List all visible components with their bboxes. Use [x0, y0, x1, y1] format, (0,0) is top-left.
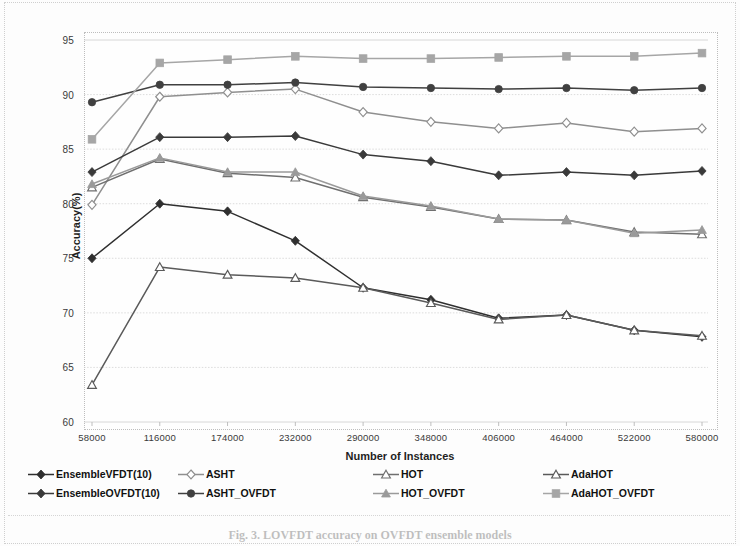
legend-item-ensemblevfdt10[interactable]: EnsembleVFDT(10) [28, 468, 152, 480]
legend-marker-icon [373, 469, 399, 480]
series-ensemblevfdt10 [88, 199, 706, 341]
legend-marker-icon [178, 488, 204, 499]
y-tick-label: 90 [62, 89, 74, 100]
legend-item-adahot-ovfdt[interactable]: AdaHOT_OVFDT [543, 487, 654, 499]
legend-marker-icon [28, 469, 54, 480]
x-ticks [92, 422, 702, 426]
y-tick-label: 60 [62, 417, 74, 428]
legend-marker-icon [543, 469, 569, 480]
series-asht [88, 85, 706, 210]
legend-marker-icon [543, 488, 569, 499]
x-tick-label: 406000 [482, 432, 515, 443]
series-hot-ovfdt [88, 154, 707, 237]
legend-label: ASHT [206, 468, 235, 480]
series-svg [84, 32, 716, 428]
x-tick-label: 464000 [550, 432, 583, 443]
legend-item-hot-ovfdt[interactable]: HOT_OVFDT [373, 487, 465, 499]
legend-label: ASHT_OVFDT [206, 487, 276, 499]
x-tick-label: 232000 [279, 432, 312, 443]
series-adahot [88, 263, 707, 389]
y-tick-label: 65 [62, 362, 74, 373]
x-tick-label: 348000 [414, 432, 447, 443]
x-tick-label: 522000 [618, 432, 651, 443]
gridlines [84, 40, 708, 422]
legend-item-asht[interactable]: ASHT [178, 468, 235, 480]
legend-label: AdaHOT_OVFDT [571, 487, 654, 499]
caption-divider [8, 515, 730, 516]
legend-label: AdaHOT [571, 468, 613, 480]
legend-label: HOT_OVFDT [401, 487, 465, 499]
series-ensembleovfdt10 [88, 132, 706, 180]
legend-row-primary: EnsembleVFDT(10)ASHTHOTAdaHOT [28, 468, 712, 487]
legend-item-adahot[interactable]: AdaHOT [543, 468, 613, 480]
x-tick-label: 116000 [144, 432, 176, 443]
legend-label: HOT [401, 468, 423, 480]
y-tick-label: 75 [62, 253, 74, 264]
figure-caption: Fig. 3. LOVFDT accuracy on OVFDT ensembl… [0, 528, 740, 543]
legend-marker-icon [178, 469, 204, 480]
x-axis-tick-labels: 5800011600017400023200029000034800040600… [84, 432, 716, 452]
x-tick-label: 58000 [78, 432, 105, 443]
x-tick-label: 290000 [347, 432, 380, 443]
plot-canvas [84, 32, 716, 428]
y-axis-tick-labels: 6065707580859095 [22, 32, 80, 428]
legend-row-ovfdt: EnsembleOVFDT(10)ASHT_OVFDTHOT_OVFDTAdaH… [28, 487, 712, 506]
legend-item-asht-ovfdt[interactable]: ASHT_OVFDT [178, 487, 276, 499]
y-tick-label: 85 [62, 144, 74, 155]
chart-area: Accuracy(%) 6065707580859095 58000116000… [22, 10, 722, 465]
x-axis-title: Number of Instances [84, 450, 716, 462]
legend-item-ensembleovfdt10[interactable]: EnsembleOVFDT(10) [28, 487, 160, 499]
legend-label: EnsembleOVFDT(10) [56, 487, 160, 499]
x-tick-label: 580000 [686, 432, 719, 443]
series-hot [88, 155, 707, 238]
y-tick-label: 70 [62, 307, 74, 318]
series-asht-ovfdt [88, 79, 705, 106]
legend-item-hot[interactable]: HOT [373, 468, 423, 480]
y-tick-label: 80 [62, 198, 74, 209]
legend-marker-icon [373, 488, 399, 499]
legend: EnsembleVFDT(10)ASHTHOTAdaHOT EnsembleOV… [28, 468, 712, 510]
figure-root: Accuracy(%) 6065707580859095 58000116000… [0, 0, 740, 546]
x-tick-label: 174000 [211, 432, 244, 443]
y-tick-label: 95 [62, 35, 74, 46]
legend-marker-icon [28, 488, 54, 499]
legend-label: EnsembleVFDT(10) [56, 468, 152, 480]
